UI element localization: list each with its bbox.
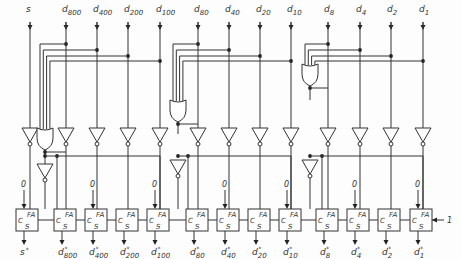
- arrowhead-icon: [223, 204, 228, 209]
- output-label-3: d200*: [120, 245, 140, 259]
- fa-label: FA: [259, 211, 268, 219]
- sum-label: S: [94, 223, 99, 231]
- inverter-gate-icon: [58, 128, 74, 142]
- carry-label: C: [318, 217, 323, 225]
- or-gate-icon: [302, 64, 318, 86]
- carry-label: C: [149, 217, 154, 225]
- inverter-gate-icon: [352, 128, 368, 142]
- inverter-bubble-icon: [258, 142, 262, 146]
- inverter-gate-icon: [320, 128, 336, 142]
- inverter-bubble-icon: [196, 142, 200, 146]
- output-label-10: d4*: [351, 245, 361, 259]
- sum-label: S: [419, 223, 424, 231]
- sum-label: S: [356, 223, 361, 231]
- inverter-bubble-icon: [358, 142, 362, 146]
- carry-label: C: [118, 217, 123, 225]
- input-label-d800: d800: [62, 4, 82, 17]
- sum-label: S: [257, 223, 262, 231]
- constant-zero-label: 0: [21, 180, 26, 189]
- inverter-bubble-icon: [176, 174, 180, 178]
- inverter-gate-icon: [170, 160, 186, 174]
- carry-in-label: 1: [447, 216, 452, 225]
- arrowhead-icon: [153, 204, 158, 209]
- inverter-bubble-icon: [389, 142, 393, 146]
- output-label-5: d80*: [190, 245, 205, 259]
- sum-label: S: [325, 223, 330, 231]
- output-label-9: d8*: [320, 245, 331, 259]
- sum-label: S: [156, 223, 161, 231]
- arrowhead-icon: [353, 204, 358, 209]
- input-label-d20: d20: [256, 4, 271, 17]
- input-label-d200: d200: [124, 4, 144, 17]
- inverter-gate-icon: [252, 128, 268, 142]
- carry-label: C: [349, 217, 354, 225]
- constant-zero-label: 0: [152, 180, 157, 189]
- inverter-gate-icon: [152, 128, 168, 142]
- output-label-12: d1*: [414, 245, 424, 259]
- inverter-bubble-icon: [326, 142, 330, 146]
- input-label-d80: d80: [194, 4, 209, 17]
- output-label-8: d10*: [283, 245, 298, 259]
- carry-label: C: [412, 217, 417, 225]
- inverter-bubble-icon: [308, 174, 312, 178]
- sum-label: S: [387, 223, 392, 231]
- fa-label: FA: [158, 211, 167, 219]
- inverter-gate-icon: [221, 128, 237, 142]
- inverter-gate-icon: [190, 128, 206, 142]
- input-label-s: s: [26, 4, 31, 14]
- or-gate-icon: [37, 128, 53, 150]
- output-label-2: d400*: [89, 245, 109, 259]
- carry-label: C: [87, 217, 92, 225]
- carry-label: C: [380, 217, 385, 225]
- carry-label: C: [18, 217, 23, 225]
- constant-zero-label: 0: [284, 180, 289, 189]
- carry-label: C: [219, 217, 224, 225]
- inverter-bubble-icon: [421, 142, 425, 146]
- fa-label: FA: [127, 211, 136, 219]
- inverter-bubble-icon: [43, 178, 47, 182]
- or-gate-icon: [170, 100, 186, 122]
- carry-label: C: [281, 217, 286, 225]
- output-label-1: d800*: [58, 245, 78, 259]
- fa-label: FA: [421, 211, 430, 219]
- fa-label: FA: [290, 211, 299, 219]
- carry-label: C: [188, 217, 193, 225]
- input-label-d2: d2: [387, 4, 398, 17]
- inverter-bubble-icon: [28, 142, 32, 146]
- input-label-d400: d400: [93, 4, 113, 17]
- carry-label: C: [250, 217, 255, 225]
- inverter-bubble-icon: [95, 142, 99, 146]
- fa-label: FA: [96, 211, 105, 219]
- carry-label: C: [56, 217, 61, 225]
- input-label-d8: d8: [324, 4, 335, 17]
- inverter-bubble-icon: [126, 142, 130, 146]
- input-label-d10: d10: [287, 4, 302, 17]
- input-label-d100: d100: [156, 4, 176, 17]
- constant-zero-label: 0: [415, 180, 420, 189]
- inverter-gate-icon: [415, 128, 431, 142]
- input-label-d4: d4: [356, 4, 366, 17]
- output-label-4: d100*: [151, 245, 171, 259]
- inverter-gate-icon: [302, 160, 318, 174]
- input-label-d40: d40: [225, 4, 240, 17]
- fa-label: FA: [327, 211, 336, 219]
- arrowhead-icon: [91, 204, 96, 209]
- fa-label: FA: [358, 211, 367, 219]
- input-label-d1: d1: [419, 4, 429, 17]
- inverter-gate-icon: [283, 128, 299, 142]
- constant-zero-label: 0: [222, 180, 227, 189]
- output-label-0: s*: [20, 246, 29, 257]
- fa-label: FA: [228, 211, 237, 219]
- arrowhead-icon: [416, 204, 421, 209]
- sum-label: S: [25, 223, 30, 231]
- constant-zero-label: 0: [352, 180, 357, 189]
- arrowhead-icon: [22, 204, 27, 209]
- constant-zero-label: 0: [90, 180, 95, 189]
- inverter-bubble-icon: [289, 142, 293, 146]
- fa-label: FA: [389, 211, 398, 219]
- inverter-bubble-icon: [227, 142, 231, 146]
- inverter-gate-icon: [37, 164, 53, 178]
- inverter-bubble-icon: [158, 142, 162, 146]
- inverter-gate-icon: [383, 128, 399, 142]
- inverter-gate-icon: [120, 128, 136, 142]
